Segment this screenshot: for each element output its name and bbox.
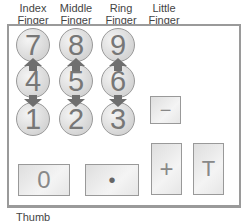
total-key[interactable]: T bbox=[193, 143, 224, 195]
key-label: 1 bbox=[25, 105, 41, 134]
key-label: + bbox=[159, 155, 173, 183]
plus-key[interactable]: + bbox=[151, 143, 182, 195]
label-line: Index bbox=[10, 2, 56, 14]
key-label: − bbox=[160, 99, 172, 122]
key-2[interactable]: 2 bbox=[59, 102, 93, 136]
label-line: Ring bbox=[98, 2, 144, 14]
label-ring-finger: Ring Finger bbox=[98, 2, 144, 26]
key-label: T bbox=[202, 156, 215, 182]
label-line: Middle bbox=[53, 2, 99, 14]
key-7[interactable]: 7 bbox=[16, 28, 50, 62]
label-little-finger: Little Finger bbox=[141, 2, 187, 26]
label-middle-finger: Middle Finger bbox=[53, 2, 99, 26]
key-8[interactable]: 8 bbox=[59, 28, 93, 62]
key-label: 8 bbox=[68, 31, 84, 60]
key-label: 3 bbox=[110, 105, 126, 134]
key-label: • bbox=[108, 169, 115, 192]
key-label: 9 bbox=[110, 31, 126, 60]
label-thumb: Thumb bbox=[16, 211, 50, 223]
key-3[interactable]: 3 bbox=[101, 102, 135, 136]
key-label: 0 bbox=[37, 166, 50, 194]
key-1[interactable]: 1 bbox=[16, 102, 50, 136]
key-9[interactable]: 9 bbox=[101, 28, 135, 62]
label-line: Little bbox=[141, 2, 187, 14]
decimal-key[interactable]: • bbox=[85, 164, 139, 196]
minus-key[interactable]: − bbox=[150, 96, 181, 124]
zero-key[interactable]: 0 bbox=[18, 164, 70, 196]
label-index-finger: Index Finger bbox=[10, 2, 56, 26]
key-label: 7 bbox=[25, 31, 41, 60]
key-label: 2 bbox=[68, 105, 84, 134]
